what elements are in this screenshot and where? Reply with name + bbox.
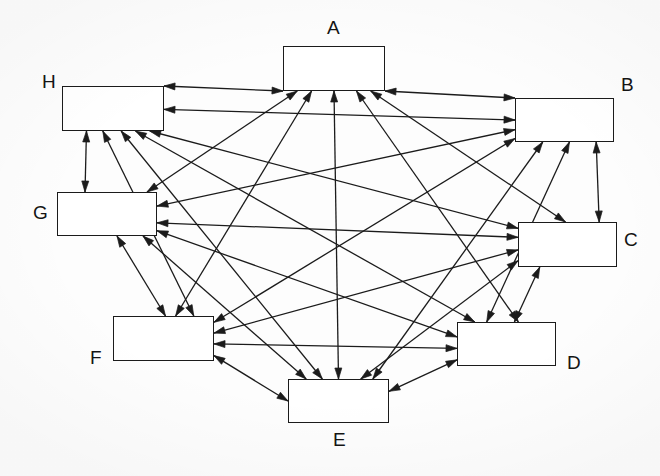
edge-a-e [334,91,339,379]
edge-c-g [157,223,518,238]
node-box-e[interactable] [288,379,389,423]
arrowhead-h [135,131,146,139]
arrowhead-b [504,94,515,101]
arrowhead-h [164,106,175,113]
arrowhead-d [446,360,457,368]
arrowhead-b [562,142,570,153]
edge-d-h [135,131,474,322]
node-label-b: B [621,75,634,94]
edge-c-h [150,131,518,228]
edge-d-f [214,344,457,349]
arrowhead-f [214,341,225,348]
arrowhead-g [147,183,158,192]
edge-b-c [596,142,599,222]
arrowhead-g [157,231,169,238]
arrowhead-c [507,261,518,270]
arrowhead-b [593,142,600,153]
arrowhead-b [504,129,515,136]
arrowhead-e [389,384,400,392]
arrowhead-a [356,91,365,102]
edge-f-g [117,236,166,316]
arrowhead-c [595,211,602,222]
diagram-canvas: ABCDEFGH [0,0,660,476]
arrowhead-g [117,236,126,247]
node-box-f[interactable] [113,316,214,361]
arrowhead-a [385,88,396,95]
arrowhead-g [157,200,168,207]
node-label-h: H [42,72,56,91]
arrowhead-e [361,370,372,379]
node-label-d: D [567,353,581,372]
arrowhead-c [554,213,565,222]
arrowhead-f [186,305,194,316]
node-box-b[interactable] [515,98,614,142]
arrowhead-d [487,311,495,322]
edge-e-f [214,356,288,401]
arrowhead-h [83,131,90,142]
arrowhead-c [532,267,540,278]
node-label-c: C [624,230,638,249]
arrowhead-e [335,368,342,379]
arrowhead-b [504,116,515,123]
arrowhead-e [373,368,382,379]
arrowhead-f [214,356,225,365]
node-box-c[interactable] [518,222,617,267]
arrowhead-d [514,311,522,322]
edge-a-h [164,86,283,91]
arrowhead-e [277,392,288,401]
arrowhead-f [176,305,185,316]
arrowhead-a [371,91,382,100]
node-label-a: A [327,18,340,37]
arrowhead-c [506,222,518,229]
node-box-g[interactable] [57,192,157,236]
arrowhead-a [286,91,297,100]
arrowhead-a [272,87,283,94]
arrowhead-f [157,305,166,316]
arrowhead-b [504,138,515,147]
node-label-f: F [90,348,102,367]
edge-a-g [147,91,297,192]
arrowhead-g [82,181,89,192]
arrowhead-f [214,327,226,334]
edge-b-f [214,138,515,322]
arrowhead-a [303,91,312,102]
arrowhead-h [150,130,162,137]
node-box-h[interactable] [62,86,164,131]
node-label-e: E [333,430,346,449]
arrowhead-d [446,345,457,352]
arrowhead-b [533,142,542,153]
node-label-g: G [33,203,48,222]
arrowhead-a [331,91,338,102]
node-box-d[interactable] [457,322,556,366]
edge-b-h [164,109,515,120]
arrowhead-c [506,249,518,256]
arrowhead-d [445,330,457,337]
node-box-a[interactable] [283,46,385,91]
arrowhead-h [164,83,175,90]
arrowhead-f [214,314,225,323]
arrowhead-d [464,314,475,322]
arrowhead-g [157,220,168,227]
arrowhead-h [103,131,111,142]
arrowhead-c [507,233,518,240]
edge-a-b [385,91,515,98]
